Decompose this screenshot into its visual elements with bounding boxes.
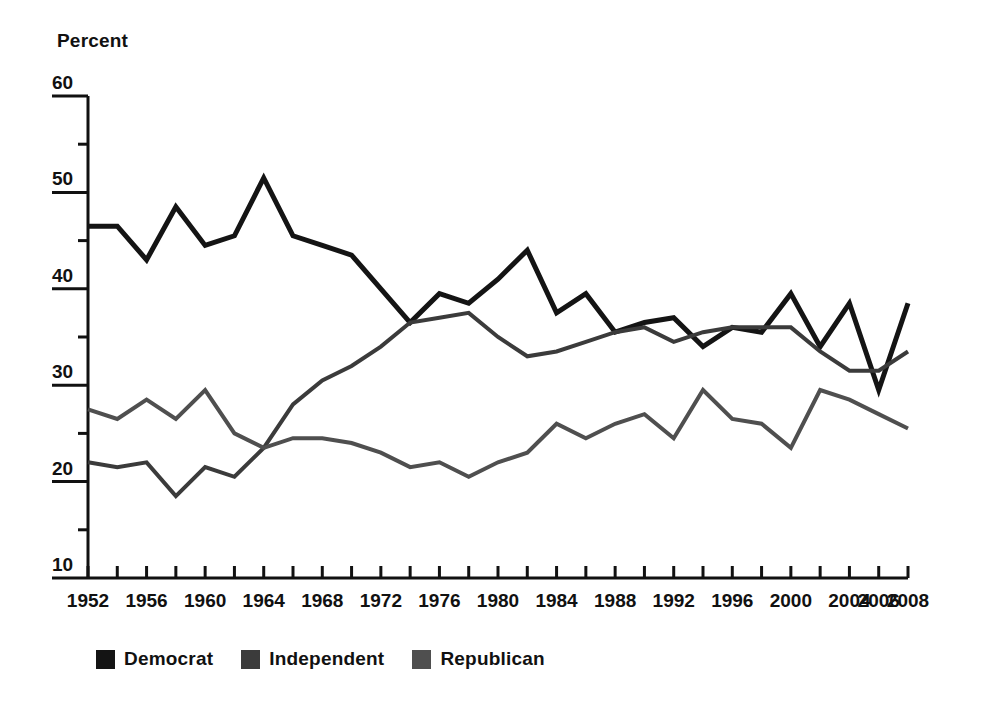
x-axis-tick-label: 1980 bbox=[468, 590, 528, 612]
legend-item-democrat: Democrat bbox=[96, 648, 213, 670]
x-axis-tick-label: 1956 bbox=[117, 590, 177, 612]
x-axis-tick-label: 1984 bbox=[527, 590, 587, 612]
data-series-group bbox=[88, 178, 908, 496]
x-axis-tick-label: 1992 bbox=[644, 590, 704, 612]
x-axis-tick-label: 2000 bbox=[761, 590, 821, 612]
legend-swatch-independent bbox=[241, 650, 260, 669]
x-axis-tick-label: 1960 bbox=[175, 590, 235, 612]
line-chart-plot bbox=[0, 0, 984, 723]
chart-legend: DemocratIndependentRepublican bbox=[96, 648, 573, 670]
legend-label: Independent bbox=[269, 648, 384, 670]
x-axis-tick-label: 1964 bbox=[234, 590, 294, 612]
y-axis-tick-label: 40 bbox=[52, 265, 73, 287]
legend-item-independent: Independent bbox=[241, 648, 384, 670]
y-axis-tick-label: 20 bbox=[52, 458, 73, 480]
legend-swatch-republican bbox=[412, 650, 431, 669]
x-axis-tick-label: 1996 bbox=[702, 590, 762, 612]
x-axis-tick-label: 1952 bbox=[58, 590, 118, 612]
series-line-independent bbox=[88, 313, 908, 496]
y-axis-tick-label: 10 bbox=[52, 554, 73, 576]
y-axis-tick-label: 60 bbox=[52, 72, 73, 94]
series-line-democrat bbox=[88, 178, 908, 390]
chart-figure: Percent 605040302010 1952195619601964196… bbox=[0, 0, 984, 723]
series-line-republican bbox=[88, 390, 908, 477]
x-axis-tick-label: 1988 bbox=[585, 590, 645, 612]
y-axis-tick-label: 30 bbox=[52, 361, 73, 383]
legend-label: Democrat bbox=[124, 648, 213, 670]
x-axis-tick-label: 1972 bbox=[351, 590, 411, 612]
x-axis-tick-label: 2008 bbox=[878, 590, 938, 612]
x-axis-tick-label: 1968 bbox=[292, 590, 352, 612]
x-axis-ticks bbox=[88, 566, 908, 578]
legend-item-republican: Republican bbox=[412, 648, 544, 670]
legend-label: Republican bbox=[440, 648, 544, 670]
x-axis-tick-label: 1976 bbox=[409, 590, 469, 612]
legend-swatch-democrat bbox=[96, 650, 115, 669]
y-axis-tick-label: 50 bbox=[52, 168, 73, 190]
